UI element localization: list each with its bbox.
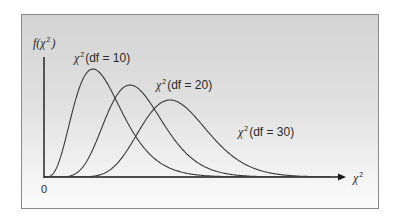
- x-axis-label: χ2: [353, 171, 364, 184]
- y-axis-label-superscript: 2: [47, 36, 51, 43]
- curve-label-df20-text: (df = 20): [167, 78, 212, 92]
- curve-label-df20-chi: χ: [156, 78, 161, 92]
- curve-label-df30-chi: χ: [238, 125, 243, 139]
- y-axis-label: f(χ2): [33, 36, 56, 49]
- curve-label-df10-chi: χ: [74, 51, 79, 65]
- y-axis-label-close: ): [52, 36, 56, 50]
- curve-label-df10-superscript: 2: [80, 51, 84, 58]
- curve-label-df20: χ2(df = 20): [156, 78, 212, 91]
- curve-label-df20-superscript: 2: [162, 78, 166, 85]
- curve-label-df10: χ2(df = 10): [74, 51, 130, 64]
- curve-label-df30: χ2(df = 30): [238, 125, 294, 138]
- origin-label: 0: [41, 184, 47, 195]
- x-axis-arrow-icon: [338, 174, 346, 181]
- chi-square-plot: [0, 0, 399, 223]
- x-axis-label-text: χ: [353, 171, 358, 185]
- x-axis-label-superscript: 2: [359, 171, 363, 178]
- curve-label-df30-text: (df = 30): [249, 125, 294, 139]
- curve-label-df30-superscript: 2: [244, 125, 248, 132]
- curve-label-df10-text: (df = 10): [85, 51, 130, 65]
- y-axis-label-text: f(χ: [33, 36, 46, 50]
